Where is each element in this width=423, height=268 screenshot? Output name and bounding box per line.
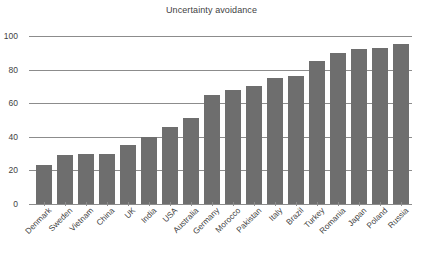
- y-tick-label: 80: [0, 65, 18, 75]
- bar: [393, 44, 409, 204]
- y-tick-label: 20: [0, 165, 18, 175]
- x-tick-mark: [296, 202, 297, 206]
- x-axis-labels: DenmarkSwedenVietnamChinaUKIndiaUSAAustr…: [33, 206, 412, 266]
- y-tick-label: 100: [0, 31, 18, 41]
- x-tick-mark: [338, 202, 339, 206]
- bar: [351, 49, 367, 204]
- x-tick-mark: [191, 202, 192, 206]
- x-tick-label: Italy: [267, 206, 284, 223]
- x-tick-label: UK: [123, 206, 137, 220]
- bar: [99, 154, 115, 204]
- x-tick-mark: [359, 202, 360, 206]
- x-tick-mark: [86, 202, 87, 206]
- y-tick-mark: [29, 204, 33, 205]
- y-tick-label: 0: [0, 199, 18, 209]
- x-tick-mark: [170, 202, 171, 206]
- x-tick-label: China: [95, 206, 117, 228]
- x-tick-mark: [254, 202, 255, 206]
- bar: [57, 155, 73, 204]
- x-tick-mark: [233, 202, 234, 206]
- bar: [162, 127, 178, 204]
- y-tick-label: 60: [0, 98, 18, 108]
- x-tick-mark: [380, 202, 381, 206]
- gridline: [33, 204, 412, 205]
- bar: [246, 86, 262, 204]
- x-tick-label: Russia: [387, 206, 411, 230]
- x-tick-mark: [107, 202, 108, 206]
- bar: [225, 90, 241, 204]
- x-tick-mark: [212, 202, 213, 206]
- bar: [330, 53, 346, 204]
- bar: [78, 154, 94, 204]
- x-tick-mark: [65, 202, 66, 206]
- bar: [309, 61, 325, 204]
- bar: [120, 145, 136, 204]
- x-tick-mark: [317, 202, 318, 206]
- bar-chart: Uncertainty avoidance 020406080100 Denma…: [0, 0, 423, 268]
- bar: [288, 76, 304, 204]
- x-tick-label: USA: [161, 206, 179, 224]
- bar: [183, 118, 199, 204]
- bar: [36, 165, 52, 204]
- x-tick-mark: [275, 202, 276, 206]
- plot-area: 020406080100: [33, 36, 412, 204]
- bar: [204, 95, 220, 204]
- x-tick-mark: [149, 202, 150, 206]
- x-tick-mark: [401, 202, 402, 206]
- x-tick-label: Denmark: [23, 206, 53, 236]
- y-tick-label: 40: [0, 132, 18, 142]
- chart-title: Uncertainty avoidance: [0, 5, 423, 15]
- x-tick-mark: [128, 202, 129, 206]
- x-tick-label: Poland: [365, 206, 389, 230]
- bar: [141, 137, 157, 204]
- bar: [372, 48, 388, 204]
- bars-container: [33, 36, 412, 204]
- x-tick-mark: [44, 202, 45, 206]
- bar: [267, 78, 283, 204]
- x-tick-label: India: [139, 206, 158, 225]
